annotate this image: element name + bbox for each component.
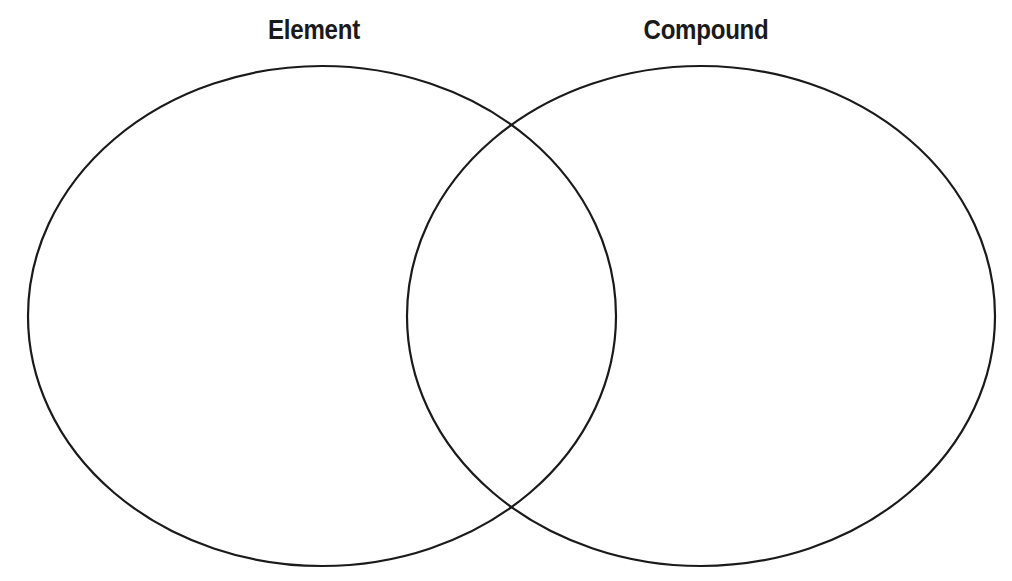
compound-only-region xyxy=(630,120,960,510)
element-only-region xyxy=(60,120,390,510)
element-set-label: Element xyxy=(228,14,400,46)
overlap-region xyxy=(420,140,600,490)
compound-set-label: Compound xyxy=(620,14,792,46)
